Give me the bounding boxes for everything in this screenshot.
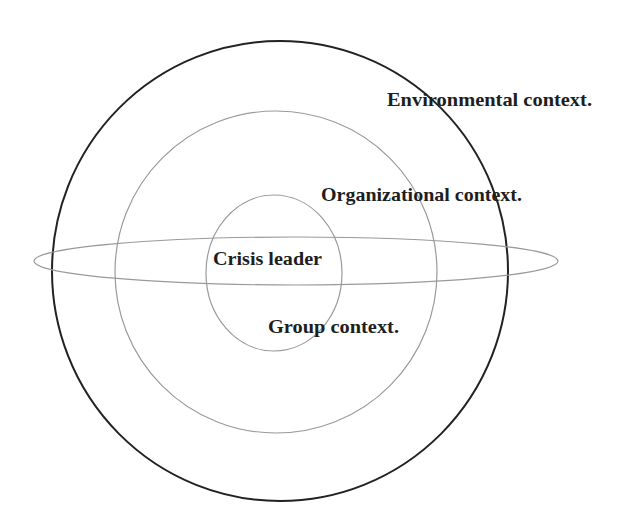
crisis-leadership-diagram: Environmental context. Organizational co… <box>0 0 622 531</box>
organizational-context-label: Organizational context. <box>321 184 522 205</box>
crisis-leader-label: Crisis leader <box>213 249 322 269</box>
environmental-context-label: Environmental context. <box>387 89 592 110</box>
group-context-label: Group context. <box>268 317 399 337</box>
